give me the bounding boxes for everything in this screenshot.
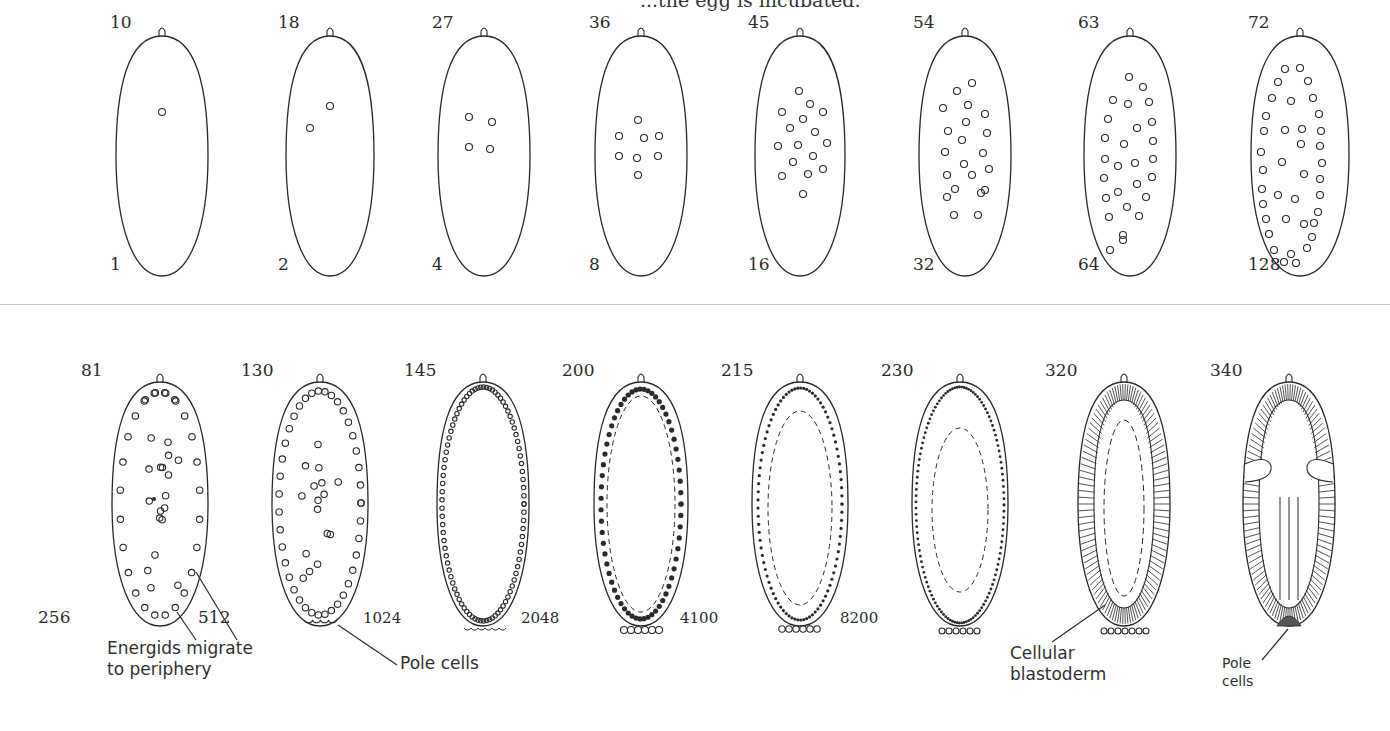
stage-minutes-label: 10: [110, 12, 132, 32]
nuclei-count-label: 2: [278, 254, 289, 274]
stage-minutes-label: 18: [278, 12, 300, 32]
nuclei-count-label: 512: [198, 607, 230, 627]
embryo-development-diagram: 1011822743684516543263647212881256130512…: [0, 0, 1390, 731]
stage-minutes-label: 54: [913, 12, 935, 32]
stage-minutes-label: 63: [1078, 12, 1100, 32]
annotation-cellular-blastoderm: Cellular blastoderm: [1010, 643, 1106, 685]
nuclei-count-label: 4: [432, 254, 443, 274]
stage-minutes-label: 81: [81, 360, 103, 380]
nuclei-count-label: 8: [589, 254, 600, 274]
nuclei-count-label: 2048: [521, 609, 559, 627]
nuclei-count-label: 64: [1078, 254, 1100, 274]
nuclei-count-label: 128: [1248, 254, 1280, 274]
stage-minutes-label: 36: [589, 12, 611, 32]
stage-minutes-label: 45: [748, 12, 770, 32]
nuclei-count-label: 256: [38, 607, 70, 627]
leader-lines: [177, 572, 1288, 665]
stage-minutes-label: 200: [562, 360, 594, 380]
annotation-pole-cells: Pole cells: [400, 653, 479, 674]
nuclei-count-label: 1024: [363, 609, 401, 627]
nuclei-count-label: 1: [110, 254, 121, 274]
stage-minutes-label: 130: [241, 360, 273, 380]
stage-minutes-label: 27: [432, 12, 454, 32]
annotation-pole-cells-late: Pole cells: [1222, 654, 1253, 690]
stage-minutes-label: 230: [881, 360, 913, 380]
stage-minutes-label: 72: [1248, 12, 1270, 32]
stage-labels: 1011822743684516543263647212881256130512…: [38, 12, 1280, 627]
nuclei-count-label: 4100: [680, 609, 718, 627]
annotation-energids-migrate: Energids migrate to periphery: [107, 638, 253, 680]
stage-minutes-label: 145: [404, 360, 436, 380]
nuclei-count-label: 16: [748, 254, 770, 274]
embryo-drawings: [112, 28, 1349, 634]
stage-minutes-label: 340: [1210, 360, 1242, 380]
stage-minutes-label: 320: [1045, 360, 1077, 380]
nuclei-count-label: 32: [913, 254, 935, 274]
stage-minutes-label: 215: [721, 360, 753, 380]
nuclei-count-label: 8200: [840, 609, 878, 627]
